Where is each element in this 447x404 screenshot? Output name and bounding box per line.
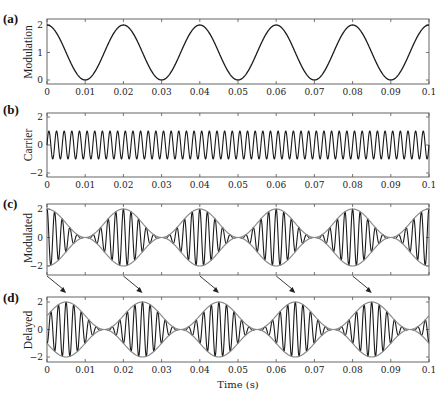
x-tick-label: 0.04 [190,180,210,190]
ticks-d: 00.010.020.030.040.050.060.070.080.090.1… [30,297,436,375]
y-tick-label: −2 [30,261,43,271]
y-tick-label: 0 [37,233,43,243]
y-tick-label: 2 [37,204,43,214]
x-tick-label: 0.1 [422,180,436,190]
panel-b: (b) Carrier 00.010.020.030.040.050.060.0… [3,102,436,190]
y-tick-label: 2 [37,112,43,122]
x-tick-label: 0.03 [152,365,172,375]
y-axis-label-carrier: Carrier [22,129,34,162]
y-tick-label: 0 [37,140,43,150]
panel-c: (c) Modulated −202 [3,196,429,275]
delay-arrows [47,276,372,293]
arrowhead-icon [60,287,66,293]
panel-label-c: (c) [3,196,17,211]
y-tick-label: 2 [37,297,43,307]
delay-arrow [276,276,293,290]
figure: (a) Modulation 00.010.020.030.040.050.06… [0,0,447,404]
plot-area-c [47,204,429,275]
x-tick-label: 0.04 [190,365,210,375]
x-tick-label: 0 [44,365,50,375]
panel-label-d: (d) [3,290,19,305]
x-tick-label: 0.04 [190,87,210,97]
arrowhead-icon [289,287,295,293]
x-tick-label: 0.06 [266,180,286,190]
x-tick-label: 0.07 [304,180,324,190]
delay-arrow [47,276,64,290]
x-tick-label: 0.09 [381,87,401,97]
x-tick-label: 0.1 [422,87,436,97]
y-tick-label: 2 [37,20,43,30]
arrowhead-icon [213,287,219,293]
x-tick-label: 0.03 [152,180,172,190]
y-axis-label-modulated: Modulated [22,213,34,263]
envelope-line-c [47,209,429,266]
x-tick-label: 0.06 [266,365,286,375]
x-tick-label: 0 [44,87,50,97]
y-tick-label: −2 [30,352,43,362]
y-tick-label: 0 [37,325,43,335]
delay-arrow [123,276,140,290]
x-tick-label: 0.01 [75,87,95,97]
x-tick-label: 0.02 [113,180,133,190]
modulation-line [47,25,429,80]
y-tick-label: 1 [37,48,43,58]
x-tick-label: 0.1 [422,365,436,375]
delay-arrow [353,276,370,290]
x-tick-label: 0.05 [228,87,248,97]
x-tick-label: 0.07 [304,365,324,375]
carrier-line [47,131,429,159]
x-tick-label: 0.09 [381,365,401,375]
x-tick-label: 0.01 [75,180,95,190]
x-tick-label: 0.01 [75,365,95,375]
arrowhead-icon [136,287,142,293]
y-tick-label: 0 [37,75,43,85]
x-axis-label: Time (s) [217,379,258,390]
x-tick-label: 0.06 [266,87,286,97]
x-tick-label: 0.02 [113,87,133,97]
y-tick-label: −2 [30,168,43,178]
x-tick-label: 0.03 [152,87,172,97]
x-tick-label: 0.08 [343,180,363,190]
x-tick-label: 0.05 [228,365,248,375]
x-tick-label: 0.02 [113,365,133,375]
panel-a: (a) Modulation 00.010.020.030.040.050.06… [3,11,436,97]
delay-arrow [200,276,217,290]
panel-label-a: (a) [3,11,18,26]
envelope-line-d [47,302,429,357]
ticks-c: −202 [30,204,429,275]
x-tick-label: 0.08 [343,87,363,97]
x-tick-label: 0.09 [381,180,401,190]
arrowhead-icon [365,287,371,293]
x-tick-label: 0.05 [228,180,248,190]
panel-d: (d) Delayed 00.010.020.030.040.050.060.0… [3,290,436,375]
x-tick-label: 0.08 [343,365,363,375]
panel-label-b: (b) [3,102,19,117]
y-axis-label-modulation: Modulation [22,25,34,79]
ticks-a: 00.010.020.030.040.050.060.070.080.090.1… [37,19,436,97]
x-tick-label: 0 [44,180,50,190]
y-axis-label-delayed: Delayed [22,311,35,350]
x-tick-label: 0.07 [304,87,324,97]
